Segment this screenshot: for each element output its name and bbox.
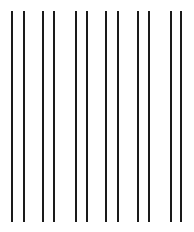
vertical-line [137,11,139,222]
vertical-line [53,11,55,222]
vertical-line [11,11,13,222]
vertical-line [148,11,150,222]
vertical-line [170,11,172,222]
vertical-line [75,11,77,222]
vertical-line [180,11,182,222]
vertical-line [23,11,25,222]
vertical-line [105,11,107,222]
vertical-line [86,11,88,222]
vertical-line [117,11,119,222]
vertical-line [42,11,44,222]
